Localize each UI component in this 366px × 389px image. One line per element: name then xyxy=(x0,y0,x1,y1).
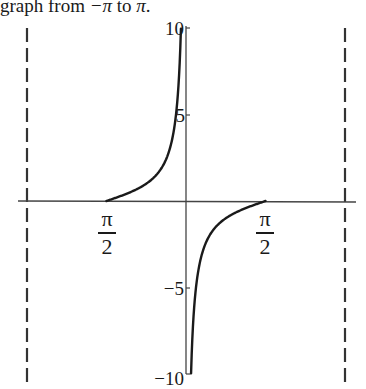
x-tick-numerator: π xyxy=(95,207,119,231)
x-tick-denominator: 2 xyxy=(95,235,119,259)
y-tick-label-neg5: −5 xyxy=(164,278,184,299)
plot-area: 10 5 −5 −10 xyxy=(0,0,366,389)
x-tick-label-neg-pi-half: π 2 xyxy=(95,207,119,259)
y-tick-label-10: 10 xyxy=(165,18,184,39)
x-tick-denominator: 2 xyxy=(253,235,277,259)
x-axis xyxy=(18,201,356,202)
y-tick-label-5: 5 xyxy=(176,105,186,126)
y-tick-label-neg10: −10 xyxy=(154,368,184,389)
x-tick-label-pi-half: π 2 xyxy=(253,207,277,259)
x-tick-numerator: π xyxy=(253,207,277,231)
left-branch-curve xyxy=(107,29,181,201)
